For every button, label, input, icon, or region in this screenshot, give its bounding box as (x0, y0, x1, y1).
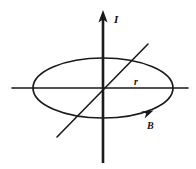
figure-root: I r B (0, 0, 196, 169)
radius-label: r (134, 76, 138, 87)
physics-diagram: I r B (0, 0, 196, 169)
current-label: I (113, 13, 119, 25)
field-label: B (146, 120, 154, 131)
field-direction-arrowhead-icon (141, 110, 154, 118)
